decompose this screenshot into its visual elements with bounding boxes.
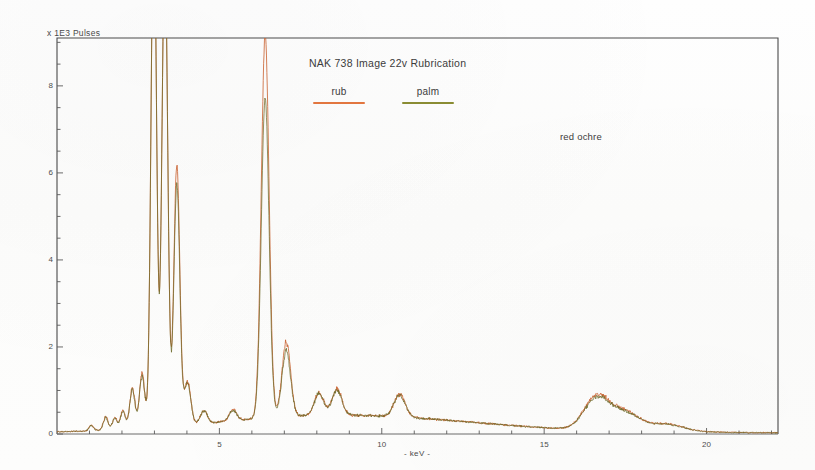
spectrum-plot <box>0 0 815 470</box>
x-axis-label: - keV - <box>404 449 430 458</box>
y-tick-0: 0 <box>41 429 53 438</box>
y-tick-8: 8 <box>41 81 53 90</box>
legend-item-rub: rub <box>313 86 365 104</box>
x-tick-10: 10 <box>371 440 393 449</box>
y-axis-label: x 1E3 Pulses <box>47 28 100 38</box>
y-tick-6: 6 <box>41 168 53 177</box>
legend-swatch-palm <box>402 102 454 104</box>
chart-title: NAK 738 Image 22v Rubrication <box>309 57 466 69</box>
x-tick-20: 20 <box>696 440 718 449</box>
y-tick-4: 4 <box>41 255 53 264</box>
spectrum-figure: x 1E3 Pulses - keV - NAK 738 Image 22v R… <box>0 0 815 470</box>
annotation-red-ochre: red ochre <box>560 131 602 142</box>
legend-item-palm: palm <box>402 86 454 104</box>
y-tick-2: 2 <box>41 342 53 351</box>
legend-label-palm: palm <box>402 86 454 97</box>
x-tick-5: 5 <box>208 440 230 449</box>
legend-swatch-rub <box>313 102 365 104</box>
legend-label-rub: rub <box>313 86 365 97</box>
plot-area <box>0 0 815 470</box>
x-tick-15: 15 <box>533 440 555 449</box>
